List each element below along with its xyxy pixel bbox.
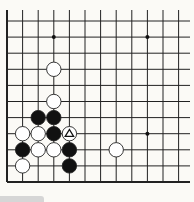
white-stone[interactable]	[15, 159, 29, 173]
star-point-icon	[145, 132, 149, 136]
black-stone[interactable]	[62, 143, 76, 157]
white-stone[interactable]	[47, 62, 61, 76]
caption-bar	[0, 196, 44, 202]
white-stone[interactable]	[31, 143, 45, 157]
black-stone[interactable]	[47, 110, 61, 124]
black-stone[interactable]	[31, 110, 45, 124]
white-stone[interactable]	[15, 127, 29, 141]
star-point-icon	[52, 35, 56, 39]
black-stone[interactable]	[62, 159, 76, 173]
white-stone[interactable]	[31, 127, 45, 141]
white-stone[interactable]	[109, 143, 123, 157]
go-board[interactable]	[0, 0, 194, 202]
white-stone[interactable]	[62, 127, 76, 141]
black-stone[interactable]	[15, 143, 29, 157]
black-stone[interactable]	[47, 127, 61, 141]
star-point-icon	[145, 35, 149, 39]
white-stone[interactable]	[47, 143, 61, 157]
white-stone[interactable]	[47, 94, 61, 108]
